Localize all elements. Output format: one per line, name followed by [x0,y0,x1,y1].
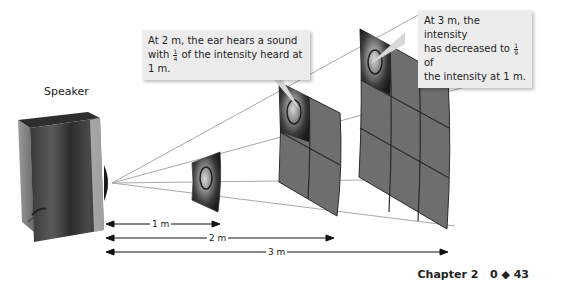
callout-3m-line1: At 3 m, the intensity [424,14,526,42]
speaker-label: Speaker [44,85,89,98]
callout-2m-text-after: of the intensity heard at 1 m. [148,49,303,74]
callout-2m: At 2 m, the ear hears a sound with 14 of… [142,30,310,80]
panel-1m [192,152,221,212]
footer-chapter: Chapter 2 [418,268,479,281]
fraction-one-quarter: 14 [173,49,177,62]
fraction-denominator: 4 [173,56,177,62]
footer-page-number: 43 [514,268,529,281]
panel-2m [279,82,341,216]
callout-3m-line3: the intensity at 1 m. [424,70,526,84]
callout-3m-line2-after: of [424,57,434,68]
inverse-square-diagram: Speaker At 2 m, the ear hears a sound wi… [0,0,561,291]
distance-label-1m: 1 m [150,219,171,229]
diamond-icon: ◆ [501,268,509,281]
footer-section: 0 [490,268,498,281]
callout-3m: At 3 m, the intensity has decreased to 1… [418,10,532,88]
page-footer: Chapter 2 0 ◆ 43 [418,268,529,281]
speaker-icon [18,112,108,242]
callout-3m-line2-before: has decreased to [424,43,510,54]
distance-label-3m: 3 m [266,247,287,257]
callout-3m-line2: has decreased to 19 of [424,42,526,70]
distance-label-2m: 2 m [207,233,228,243]
fraction-one-ninth: 19 [514,43,518,56]
fraction-denominator: 9 [514,50,518,56]
